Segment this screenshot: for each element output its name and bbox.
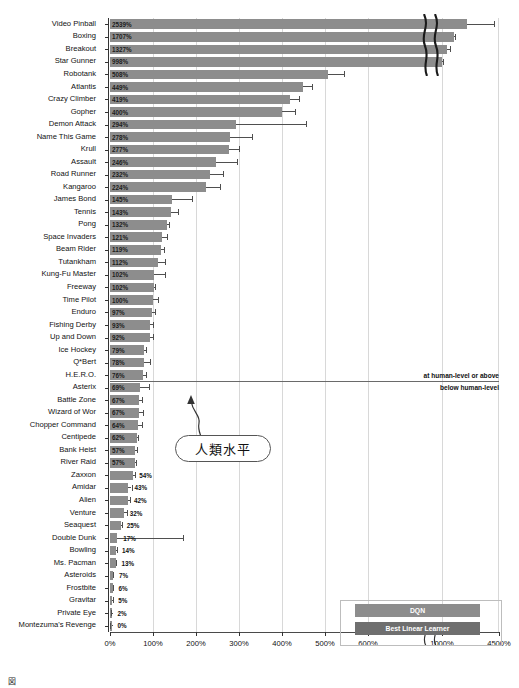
x-axis-tick	[196, 632, 197, 636]
error-bar-cap	[450, 46, 451, 52]
bar-value-label: 43%	[134, 483, 147, 492]
bar-row: 42%	[110, 496, 499, 506]
bar-dqn	[110, 533, 117, 543]
error-bar	[236, 124, 305, 125]
error-bar-cap	[306, 121, 307, 127]
error-bar-cap	[142, 422, 143, 428]
bar-value-label: 92%	[112, 333, 125, 342]
y-axis-label: Name This Game	[37, 133, 96, 141]
y-axis-label: Time Pilot	[63, 296, 96, 304]
bar-dqn	[110, 82, 303, 92]
callout-box: 人類水平	[175, 435, 271, 462]
y-axis-category-labels: Video PinballBoxingBreakoutStar GunnerRo…	[0, 18, 104, 632]
bar-value-label: 7%	[119, 571, 128, 580]
y-axis-label: Kung-Fu Master	[42, 270, 96, 278]
bar-row: 92%	[110, 333, 499, 343]
bar-row: 419%	[110, 95, 499, 105]
bar-value-label: 2%	[118, 609, 127, 618]
legend-label-best-linear: Best Linear Learner	[386, 625, 450, 632]
bar-row: 112%	[110, 258, 499, 268]
x-axis-tick	[282, 632, 283, 636]
bar-value-label: 97%	[112, 308, 125, 317]
bar-row: 100%	[110, 295, 499, 305]
error-bar-cap	[138, 435, 139, 441]
bar-dqn	[110, 483, 128, 493]
x-axis-tick	[110, 632, 111, 636]
error-bar-cap	[312, 84, 313, 90]
bar-value-label: 0%	[118, 621, 127, 630]
error-bar-cap	[165, 259, 166, 265]
y-axis-label: H.E.R.O.	[66, 371, 96, 379]
error-bar-cap	[117, 547, 118, 553]
bar-row: 121%	[110, 232, 499, 242]
bar-row: 246%	[110, 157, 499, 167]
y-axis-label: Atlantis	[71, 83, 96, 91]
bar-row: 57%	[110, 458, 499, 468]
error-bar-cap	[146, 372, 147, 378]
y-axis-label: Krull	[81, 145, 96, 153]
x-axis-tick	[325, 632, 326, 636]
y-axis-line	[108, 18, 109, 632]
bar-value-label: 246%	[112, 158, 128, 167]
bar-value-label: 62%	[112, 433, 125, 442]
y-axis-label: Breakout	[66, 45, 96, 53]
bar-row: 7%	[110, 571, 499, 581]
legend-item-dqn: DQN	[355, 604, 480, 617]
error-bar-cap	[455, 34, 456, 40]
error-bar	[303, 86, 312, 87]
bar-dqn	[110, 120, 236, 130]
error-bar	[158, 262, 165, 263]
bar-row: 145%	[110, 195, 499, 205]
error-bar-cap	[113, 572, 114, 578]
y-axis-label: Gopher	[71, 108, 96, 116]
error-bar-cap	[158, 297, 159, 303]
bar-row: 43%	[110, 483, 499, 493]
bar-row: 78%	[110, 358, 499, 368]
bar-dqn	[110, 32, 454, 42]
y-axis-label: Tutankham	[58, 258, 96, 266]
y-axis-label: Asterix	[73, 383, 96, 391]
bar-value-label: 14%	[122, 546, 135, 555]
bar-row: 232%	[110, 170, 499, 180]
error-bar-cap	[127, 510, 128, 516]
error-bar-cap	[239, 146, 240, 152]
bar-value-label: 32%	[130, 509, 143, 518]
error-bar	[216, 162, 237, 163]
legend: DQN Best Linear Learner	[355, 604, 505, 644]
error-bar-cap	[150, 359, 151, 365]
y-axis-label: Amidar	[72, 483, 96, 491]
y-axis-label: Alien	[79, 496, 96, 504]
bar-value-label: 5%	[118, 596, 127, 605]
y-axis-label: Ms. Pacman	[54, 559, 96, 567]
error-bar-cap	[113, 585, 114, 591]
bar-row: 119%	[110, 245, 499, 255]
human-level-callout: 人類水平	[153, 393, 223, 455]
error-bar-cap	[252, 134, 253, 140]
y-axis-label: Pong	[78, 220, 96, 228]
error-bar-cap	[149, 384, 150, 390]
y-axis-label: Q*Bert	[73, 358, 96, 366]
y-axis-label: Space Invaders	[43, 233, 96, 241]
bar-row: 294%	[110, 120, 499, 130]
legend-item-best-linear-learner: Best Linear Learner	[355, 622, 480, 635]
error-bar-cap	[155, 309, 156, 315]
error-bar-cap	[142, 397, 143, 403]
error-bar-cap	[223, 171, 224, 177]
error-bar	[154, 274, 165, 275]
bar-row: 277%	[110, 145, 499, 155]
bar-value-label: 102%	[112, 283, 128, 292]
y-axis-label: Montezuma's Revenge	[19, 621, 96, 629]
bar-row: 278%	[110, 132, 499, 142]
y-axis-label: Tennis	[74, 208, 96, 216]
bar-value-label: 54%	[139, 471, 152, 480]
error-bar-cap	[178, 209, 179, 215]
bar-value-label: 79%	[112, 346, 125, 355]
bar-value-label: 6%	[119, 584, 128, 593]
bar-row: 224%	[110, 182, 499, 192]
bar-dqn	[110, 57, 442, 67]
bar-dqn	[110, 508, 124, 518]
bar-value-label: 449%	[112, 83, 128, 92]
y-axis-label: Zaxxon	[71, 471, 96, 479]
y-axis-label: Up and Down	[50, 333, 96, 341]
error-bar	[112, 625, 113, 626]
